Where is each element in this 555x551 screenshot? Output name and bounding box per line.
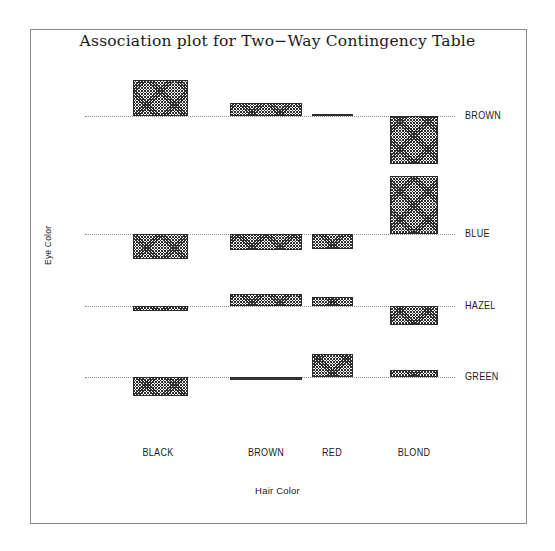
association-plot-screen: Association plot for Two−Way Contingency… — [0, 0, 555, 551]
assoc-bar-hazel-brown — [230, 294, 302, 306]
assoc-bar-brown-brown — [230, 103, 302, 116]
y-axis-label: Eye Color — [42, 226, 53, 265]
row-label-green: GREEN — [465, 370, 499, 382]
assoc-bar-hazel-black — [133, 306, 188, 311]
assoc-bar-green-blond — [390, 370, 438, 377]
plot-panel — [85, 60, 455, 400]
assoc-bar-green-brown — [230, 377, 302, 380]
assoc-bar-blue-brown — [230, 234, 302, 250]
col-label-blond: BLOND — [373, 446, 455, 458]
assoc-bar-green-black — [133, 377, 188, 396]
page-title: Association plot for Two−Way Contingency… — [0, 32, 555, 50]
x-axis-label: Hair Color — [0, 485, 555, 496]
row-label-blue: BLUE — [465, 227, 490, 239]
assoc-bar-blue-red — [312, 234, 353, 249]
assoc-bar-hazel-red — [312, 297, 353, 306]
col-label-black: BLACK — [117, 446, 199, 458]
assoc-bar-blue-black — [133, 234, 188, 259]
assoc-bar-brown-black — [133, 80, 188, 116]
col-label-red: RED — [291, 446, 373, 458]
assoc-bar-hazel-blond — [390, 306, 438, 325]
assoc-bar-green-red — [312, 354, 353, 377]
row-label-hazel: HAZEL — [465, 299, 496, 311]
assoc-bar-brown-blond — [390, 116, 438, 164]
assoc-bar-brown-red — [312, 114, 353, 116]
assoc-bar-blue-blond — [390, 176, 438, 234]
row-label-brown: BROWN — [465, 109, 501, 121]
